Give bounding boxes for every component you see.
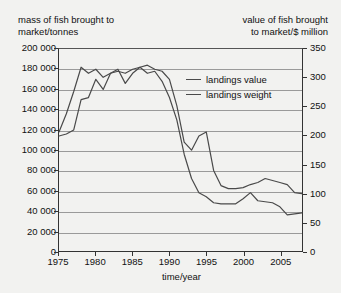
x-tick-mark [95, 252, 96, 256]
right-tick-mark [303, 106, 307, 107]
right-tick-mark [303, 77, 307, 78]
left-tick-label: 200 000 [0, 43, 56, 53]
right-tick-label: 50 [310, 218, 341, 228]
right-tick-mark [303, 135, 307, 136]
right-tick-mark [303, 223, 307, 224]
x-tick-mark [281, 252, 282, 256]
x-tick-mark [244, 252, 245, 256]
x-tick-label: 1985 [122, 256, 143, 267]
right-tick-label: 0 [310, 247, 341, 257]
left-tick-label: 80 000 [0, 165, 56, 175]
left-axis-caption: mass of fish brought to market/tonnes [18, 14, 114, 37]
x-tick-mark [58, 252, 59, 256]
x-tick-label: 1980 [85, 256, 106, 267]
x-tick-label: 1990 [159, 256, 180, 267]
left-tick-label: 160 000 [0, 84, 56, 94]
x-tick-mark [169, 252, 170, 256]
right-tick-label: 350 [310, 43, 341, 53]
right-tick-mark [303, 165, 307, 166]
x-tick-label: 1995 [196, 256, 217, 267]
right-tick-mark [303, 252, 307, 253]
left-tick-label: 100 000 [0, 145, 56, 155]
legend-swatch-icon [186, 79, 201, 80]
fish-landings-chart: mass of fish brought to market/tonnes va… [0, 0, 341, 293]
right-tick-label: 300 [310, 72, 341, 82]
left-tick-label: 180 000 [0, 63, 56, 73]
left-tick-label: 140 000 [0, 104, 56, 114]
right-tick-mark [303, 194, 307, 195]
legend-label-landings-value: landings value [206, 72, 267, 87]
right-tick-label: 200 [310, 130, 341, 140]
legend: landings value landings weight [186, 72, 272, 102]
left-tick-label: 60 000 [0, 186, 56, 196]
x-tick-label: 2000 [233, 256, 254, 267]
x-tick-mark [132, 252, 133, 256]
x-tick-label: 2005 [270, 256, 291, 267]
x-tick-mark [206, 252, 207, 256]
x-axis-title: time/year [0, 271, 341, 282]
x-tick-label: 1975 [47, 256, 68, 267]
legend-item-landings-value: landings value [186, 72, 272, 87]
right-tick-label: 250 [310, 101, 341, 111]
right-tick-mark [303, 48, 307, 49]
left-tick-label: 20 000 [0, 227, 56, 237]
legend-swatch-icon [186, 94, 201, 95]
left-tick-label: 120 000 [0, 125, 56, 135]
right-tick-label: 150 [310, 160, 341, 170]
right-axis-caption: value of fish brought to market/$ millio… [242, 14, 328, 37]
legend-item-landings-weight: landings weight [186, 87, 272, 102]
legend-label-landings-weight: landings weight [206, 87, 272, 102]
x-axis-title-label: time/year [162, 271, 201, 282]
left-tick-label: 40 000 [0, 206, 56, 216]
right-tick-label: 100 [310, 189, 341, 199]
